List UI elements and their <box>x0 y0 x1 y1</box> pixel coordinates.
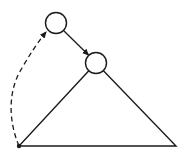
subtree-triangle <box>19 63 176 146</box>
origin-dot <box>17 144 21 148</box>
solid-arrow-edge <box>64 31 89 56</box>
dashed-arrow-edge <box>11 32 46 146</box>
top-node-circle <box>46 13 67 34</box>
child-node-circle <box>86 53 107 74</box>
diagram-canvas <box>0 0 190 152</box>
